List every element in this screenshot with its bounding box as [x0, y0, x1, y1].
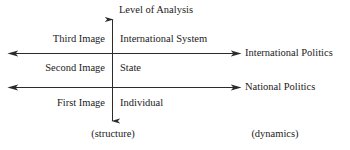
footnote-structure: (structure): [91, 128, 135, 140]
footnote-dynamics: (dynamics): [251, 128, 298, 140]
level-of-analysis-diagram: Level of Analysis Third Image Internatio…: [0, 0, 350, 150]
axis-title-level-of-analysis: Level of Analysis: [119, 4, 193, 16]
label-individual: Individual: [120, 97, 163, 109]
label-third-image: Third Image: [5, 33, 105, 45]
label-international-system: International System: [120, 33, 207, 45]
label-state: State: [120, 62, 141, 74]
label-international-politics: International Politics: [245, 47, 333, 59]
label-first-image: First Image: [5, 97, 105, 109]
label-national-politics: National Politics: [245, 81, 315, 93]
label-second-image: Second Image: [5, 62, 105, 74]
